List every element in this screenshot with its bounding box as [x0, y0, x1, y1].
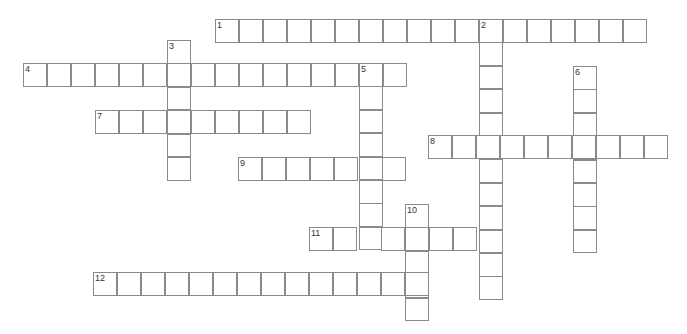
crossword-cell[interactable]	[479, 206, 503, 230]
letter-input[interactable]	[574, 184, 596, 206]
letter-input[interactable]	[216, 20, 238, 42]
crossword-cell[interactable]	[119, 63, 143, 87]
crossword-cell[interactable]	[575, 19, 599, 43]
crossword-cell[interactable]	[213, 272, 237, 296]
crossword-cell[interactable]	[263, 110, 287, 134]
letter-input[interactable]	[264, 20, 286, 42]
crossword-cell[interactable]	[215, 110, 239, 134]
letter-input[interactable]	[480, 277, 502, 299]
letter-input[interactable]	[311, 158, 333, 180]
crossword-cell[interactable]	[167, 87, 191, 111]
crossword-cell[interactable]	[573, 89, 597, 113]
crossword-cell[interactable]	[479, 42, 503, 66]
letter-input[interactable]	[383, 158, 405, 180]
letter-input[interactable]	[263, 158, 285, 180]
letter-input[interactable]	[574, 161, 596, 183]
letter-input[interactable]	[480, 184, 502, 206]
crossword-cell[interactable]	[167, 134, 191, 158]
crossword-cell[interactable]	[359, 227, 383, 251]
crossword-cell[interactable]: 3	[167, 40, 191, 64]
crossword-cell[interactable]	[215, 63, 239, 87]
crossword-cell[interactable]	[143, 110, 167, 134]
letter-input[interactable]	[480, 90, 502, 112]
crossword-cell[interactable]	[405, 272, 429, 296]
crossword-cell[interactable]	[479, 66, 503, 90]
crossword-cell[interactable]	[143, 63, 167, 87]
crossword-cell[interactable]	[71, 63, 95, 87]
letter-input[interactable]	[480, 43, 502, 65]
crossword-cell[interactable]	[141, 272, 165, 296]
crossword-cell[interactable]	[239, 19, 263, 43]
crossword-cell[interactable]: 2	[479, 19, 503, 43]
letter-input[interactable]	[168, 158, 190, 180]
crossword-cell[interactable]	[479, 253, 503, 277]
letter-input[interactable]	[144, 64, 166, 86]
crossword-cell[interactable]	[117, 272, 141, 296]
crossword-cell[interactable]	[359, 19, 383, 43]
letter-input[interactable]	[480, 114, 502, 136]
crossword-cell[interactable]	[405, 251, 429, 275]
crossword-cell[interactable]	[573, 160, 597, 184]
letter-input[interactable]	[144, 111, 166, 133]
letter-input[interactable]	[480, 67, 502, 89]
crossword-cell[interactable]: 6	[573, 66, 597, 90]
crossword-cell[interactable]	[383, 19, 407, 43]
letter-input[interactable]	[430, 228, 452, 250]
letter-input[interactable]	[574, 90, 596, 112]
crossword-cell[interactable]	[431, 19, 455, 43]
crossword-cell[interactable]	[239, 63, 263, 87]
crossword-cell[interactable]	[503, 19, 527, 43]
crossword-cell[interactable]	[573, 183, 597, 207]
letter-input[interactable]	[118, 273, 140, 295]
crossword-cell[interactable]	[620, 135, 644, 159]
crossword-cell[interactable]: 5	[359, 63, 383, 87]
letter-input[interactable]	[360, 20, 382, 42]
letter-input[interactable]	[94, 273, 116, 295]
letter-input[interactable]	[286, 273, 308, 295]
letter-input[interactable]	[501, 136, 523, 158]
letter-input[interactable]	[480, 254, 502, 276]
letter-input[interactable]	[168, 41, 190, 63]
crossword-cell[interactable]	[548, 135, 572, 159]
crossword-cell[interactable]	[191, 110, 215, 134]
crossword-cell[interactable]	[573, 206, 597, 230]
letter-input[interactable]	[190, 273, 212, 295]
crossword-cell[interactable]	[287, 63, 311, 87]
letter-input[interactable]	[312, 20, 334, 42]
crossword-cell[interactable]	[479, 183, 503, 207]
crossword-cell[interactable]	[381, 272, 405, 296]
crossword-cell[interactable]	[189, 272, 213, 296]
crossword-cell[interactable]	[524, 135, 548, 159]
crossword-cell[interactable]	[599, 19, 623, 43]
letter-input[interactable]	[408, 20, 430, 42]
crossword-cell[interactable]	[335, 19, 359, 43]
letter-input[interactable]	[360, 134, 382, 156]
letter-input[interactable]	[549, 136, 571, 158]
crossword-cell[interactable]	[479, 159, 503, 183]
crossword-cell[interactable]: 4	[23, 63, 47, 87]
crossword-cell[interactable]	[359, 133, 383, 157]
letter-input[interactable]	[360, 87, 382, 109]
crossword-cell[interactable]	[333, 227, 357, 251]
letter-input[interactable]	[168, 111, 190, 133]
letter-input[interactable]	[624, 20, 646, 42]
letter-input[interactable]	[574, 207, 596, 229]
crossword-cell[interactable]	[359, 157, 383, 181]
crossword-cell[interactable]	[237, 272, 261, 296]
crossword-cell[interactable]	[644, 135, 668, 159]
letter-input[interactable]	[142, 273, 164, 295]
crossword-cell[interactable]	[95, 63, 119, 87]
letter-input[interactable]	[168, 64, 190, 86]
letter-input[interactable]	[24, 64, 46, 86]
letter-input[interactable]	[429, 136, 451, 158]
letter-input[interactable]	[360, 228, 382, 250]
letter-input[interactable]	[168, 88, 190, 110]
crossword-cell[interactable]	[573, 230, 597, 254]
letter-input[interactable]	[621, 136, 643, 158]
crossword-cell[interactable]	[382, 157, 406, 181]
letter-input[interactable]	[360, 64, 382, 86]
crossword-cell[interactable]	[596, 135, 620, 159]
letter-input[interactable]	[238, 273, 260, 295]
letter-input[interactable]	[262, 273, 284, 295]
crossword-cell[interactable]: 8	[428, 135, 452, 159]
